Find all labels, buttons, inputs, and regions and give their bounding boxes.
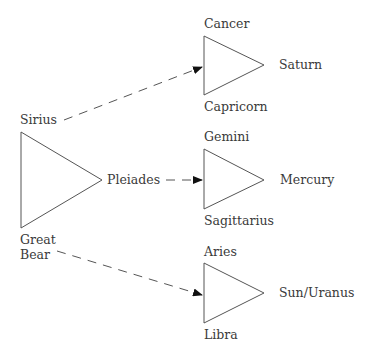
label-sirius: Sirius [20, 113, 57, 127]
arrow-greatbear-to-aries [57, 251, 202, 295]
label-capricorn: Capricorn [204, 100, 268, 114]
label-sun-uranus: Sun/Uranus [279, 286, 354, 300]
diagram-canvas: Sirius Pleiades Great Bear Cancer Capric… [0, 0, 367, 356]
label-bear: Bear [20, 248, 50, 262]
label-libra: Libra [204, 328, 238, 342]
target-triangle-mercury [204, 149, 264, 209]
source-triangle [21, 132, 102, 228]
label-sagittarius: Sagittarius [204, 214, 274, 228]
target-triangle-sun-uranus [204, 263, 264, 323]
label-aries: Aries [204, 245, 237, 259]
label-pleiades: Pleiades [107, 173, 160, 187]
arrow-sirius-to-cancer [64, 67, 202, 120]
target-triangle-saturn [204, 36, 264, 95]
label-cancer: Cancer [204, 17, 249, 31]
label-mercury: Mercury [280, 173, 334, 187]
label-saturn: Saturn [279, 58, 322, 72]
label-great: Great [20, 233, 56, 247]
label-gemini: Gemini [204, 130, 249, 144]
